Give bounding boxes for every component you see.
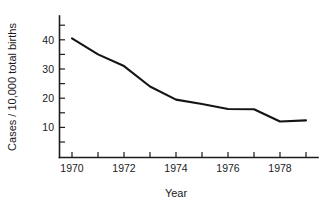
x-tick-label-1978: 1978 [268, 162, 292, 174]
y-axis-title: Cases / 10,000 total births [6, 23, 18, 151]
y-tick-label-10: 10 [42, 121, 54, 133]
x-tick-label-1972: 1972 [112, 162, 136, 174]
data-series-line [72, 38, 306, 121]
x-tick-label-1970: 1970 [60, 162, 84, 174]
y-tick-marks [60, 25, 66, 142]
line-chart: 40 30 20 10 1970 1972 1974 1976 1978 Yea… [0, 0, 332, 206]
y-tick-label-30: 30 [42, 63, 54, 75]
x-tick-label-1974: 1974 [164, 162, 188, 174]
x-tick-label-1976: 1976 [216, 162, 240, 174]
x-tick-marks [72, 152, 306, 158]
y-tick-label-20: 20 [42, 92, 54, 104]
x-axis-title: Year [165, 187, 188, 199]
y-tick-label-40: 40 [42, 34, 54, 46]
chart-figure: 40 30 20 10 1970 1972 1974 1976 1978 Yea… [0, 0, 332, 206]
